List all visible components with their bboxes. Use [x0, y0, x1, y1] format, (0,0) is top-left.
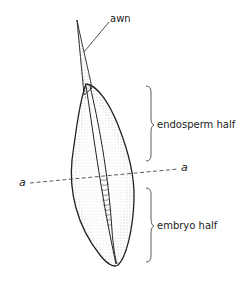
embryo-brace: [146, 188, 154, 262]
axis-label-right: a: [181, 162, 188, 173]
axis-label-left: a: [19, 177, 26, 188]
endosperm-brace: [146, 86, 154, 161]
awn-label: awn: [110, 14, 131, 24]
embryo-half-label: embryo half: [157, 221, 217, 231]
seed-diagram: [0, 0, 250, 285]
grain-body: [71, 84, 134, 266]
awn-leader-line: [84, 22, 109, 52]
endosperm-half-label: endosperm half: [157, 120, 235, 130]
